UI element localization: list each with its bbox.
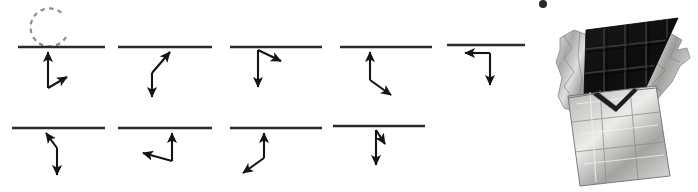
- panel-9: [333, 126, 425, 165]
- short-diagonal-down-right-arrow: [376, 130, 385, 144]
- diagonal-down-right-arrow: [258, 50, 281, 61]
- diagonal-down-right-arrow: [370, 80, 391, 95]
- panel-8: [230, 128, 322, 173]
- screenshot-root: [0, 0, 698, 192]
- photo-speck: [539, 0, 547, 8]
- panel-7: [118, 128, 212, 161]
- panel-4: [340, 47, 432, 95]
- panel-2: [118, 47, 212, 97]
- panel-5: [447, 45, 525, 85]
- foil-sleeve: [568, 86, 670, 186]
- diagonal-down-left-arrow: [243, 158, 264, 173]
- diagonal-up-right-arrow: [48, 77, 67, 88]
- chocolate-photo-svg: [530, 0, 698, 192]
- panel-3: [230, 47, 322, 87]
- dashed-arc-icon: [31, 8, 66, 46]
- panel-1: [18, 8, 105, 88]
- diagram-svg: [0, 0, 530, 192]
- diagonal-up-left-arrow: [46, 133, 57, 148]
- diagonal-up-right-arrow: [152, 52, 170, 73]
- chocolate-bar-photo: [530, 0, 698, 192]
- panel-6: [12, 128, 105, 175]
- physics-vector-diagram-panel: [0, 0, 530, 192]
- left-arrow: [143, 153, 172, 161]
